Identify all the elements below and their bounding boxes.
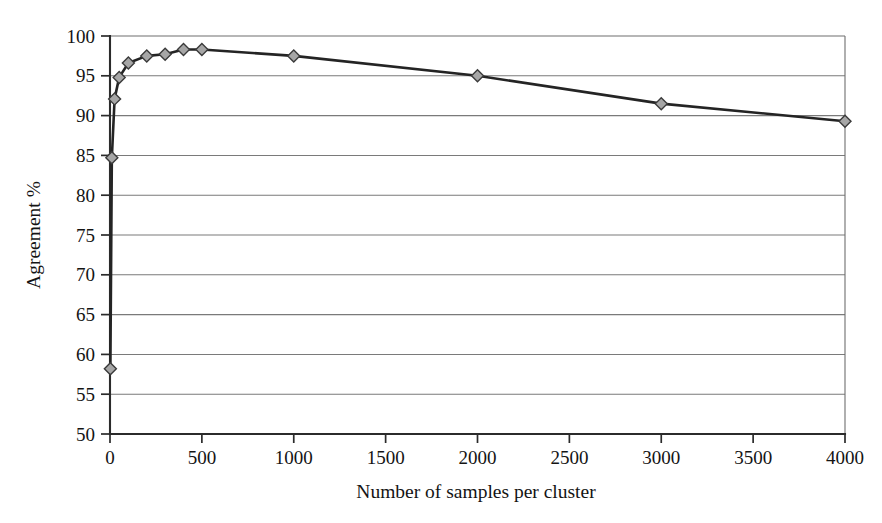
x-tick-label: 3500 [734, 447, 772, 468]
x-tick-label: 1500 [367, 447, 405, 468]
y-tick-label: 60 [76, 344, 95, 365]
y-tick-label: 75 [76, 225, 95, 246]
x-tick-label: 4000 [826, 447, 864, 468]
chart-figure: 50556065707580859095100 0500100015002000… [0, 0, 882, 523]
y-tick-label: 100 [67, 26, 96, 47]
y-tick-label: 95 [76, 65, 95, 86]
y-tick-label: 85 [76, 145, 95, 166]
x-tick-label: 2500 [550, 447, 588, 468]
x-axis-title: Number of samples per cluster [356, 481, 596, 502]
x-tick-label: 1000 [275, 447, 313, 468]
y-tick-label: 80 [76, 185, 95, 206]
x-tick-label: 500 [188, 447, 217, 468]
y-tick-label: 70 [76, 264, 95, 285]
x-tick-label: 3000 [642, 447, 680, 468]
line-chart: 50556065707580859095100 0500100015002000… [0, 0, 882, 523]
x-tick-label: 2000 [459, 447, 497, 468]
y-tick-label: 50 [76, 424, 95, 445]
x-tick-label: 0 [105, 447, 115, 468]
y-tick-label: 90 [76, 105, 95, 126]
y-axis-title: Agreement % [23, 181, 44, 289]
y-tick-label: 65 [76, 304, 95, 325]
figure-background [0, 0, 882, 523]
y-tick-label: 55 [76, 384, 95, 405]
